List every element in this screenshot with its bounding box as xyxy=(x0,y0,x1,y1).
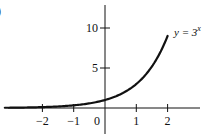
x-tick-label: 0 xyxy=(94,114,100,128)
y-tick-label: 10 xyxy=(86,21,98,35)
x-tick-label: 1 xyxy=(133,114,139,128)
function-label: y = 3x xyxy=(173,24,201,38)
exponential-chart: −2−1012 510 y = 3x xyxy=(0,0,210,140)
function-label-base: y = 3 xyxy=(173,26,198,38)
y-ticks: 510 xyxy=(86,21,110,75)
x-tick-label: −1 xyxy=(67,114,80,128)
x-tick-label: 2 xyxy=(165,114,171,128)
function-label-exponent: x xyxy=(196,24,201,33)
x-tick-label: −2 xyxy=(36,114,49,128)
exponential-curve xyxy=(5,36,168,108)
y-tick-label: 5 xyxy=(92,61,98,75)
